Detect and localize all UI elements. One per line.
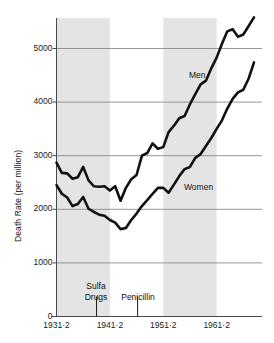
annotation-label-sulfa-drugs-line2: Drugs bbox=[76, 292, 116, 302]
y-tick-label-4000: 4000 bbox=[19, 96, 53, 106]
series-label-men: Men bbox=[189, 70, 206, 80]
x-tick-label-1931: 1931·2 bbox=[37, 320, 77, 330]
annotation-label-penicillin: Penicillin bbox=[112, 292, 164, 302]
x-tick-label-1941: 1941·2 bbox=[90, 320, 130, 330]
x-tick-label-1951: 1951·2 bbox=[143, 320, 183, 330]
y-tick-label-1000: 1000 bbox=[19, 257, 53, 267]
x-tick-label-1961: 1961·2 bbox=[197, 320, 237, 330]
series-label-women: Women bbox=[184, 182, 213, 192]
y-tick-label-3000: 3000 bbox=[19, 150, 53, 160]
y-tick-label-2000: 2000 bbox=[19, 203, 53, 213]
chart-figure: Death Rate (per million) 010002000300040… bbox=[0, 0, 274, 343]
annotation-label-sulfa-drugs-line1: Sulfa bbox=[76, 281, 116, 291]
y-axis-title: Death Rate (per million) bbox=[13, 150, 23, 242]
y-tick-label-5000: 5000 bbox=[19, 43, 53, 53]
